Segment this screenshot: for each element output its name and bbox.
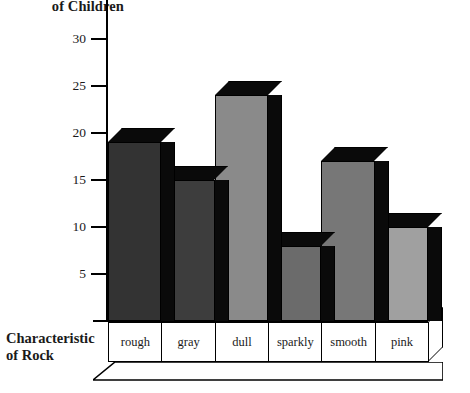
bar-side-face <box>321 246 335 321</box>
category-label-row: roughgraydullsparklysmoothpink <box>108 322 428 362</box>
y-tick-15 <box>91 179 107 181</box>
x-axis-title: Characteristic of Rock <box>6 330 102 364</box>
category-label-pink: pink <box>375 322 430 362</box>
y-tick-5 <box>91 273 107 275</box>
bar-chart: of Children 51015202530 roughgraydullspa… <box>0 0 470 393</box>
category-label-smooth: smooth <box>321 322 376 362</box>
bar-top-face <box>215 81 282 95</box>
y-tick-30 <box>91 38 107 40</box>
y-tick-label-20: 20 <box>46 126 86 139</box>
y-tick-label-25: 25 <box>46 79 86 92</box>
bar-top-face <box>108 128 175 142</box>
bar-top-face <box>321 147 388 161</box>
y-tick-20 <box>91 132 107 134</box>
bar-front-face <box>108 142 161 321</box>
category-label-dull: dull <box>215 322 270 362</box>
category-label-rough: rough <box>108 322 163 362</box>
y-tick-label-10: 10 <box>46 220 86 233</box>
bar-side-face <box>215 180 229 321</box>
category-label-sparkly: sparkly <box>268 322 323 362</box>
bar-side-face <box>161 142 175 321</box>
y-tick-label-5: 5 <box>46 267 86 280</box>
y-tick-label-15: 15 <box>46 173 86 186</box>
y-tick-label-30: 30 <box>46 32 86 45</box>
y-tick-25 <box>91 85 107 87</box>
chart-base-3d <box>93 362 443 392</box>
bar-side-face <box>375 161 389 321</box>
bar-rough <box>108 142 161 321</box>
category-label-gray: gray <box>161 322 216 362</box>
plot-area <box>108 0 428 321</box>
bar-side-face <box>268 95 282 321</box>
bar-side-face <box>428 227 442 321</box>
y-tick-10 <box>91 226 107 228</box>
